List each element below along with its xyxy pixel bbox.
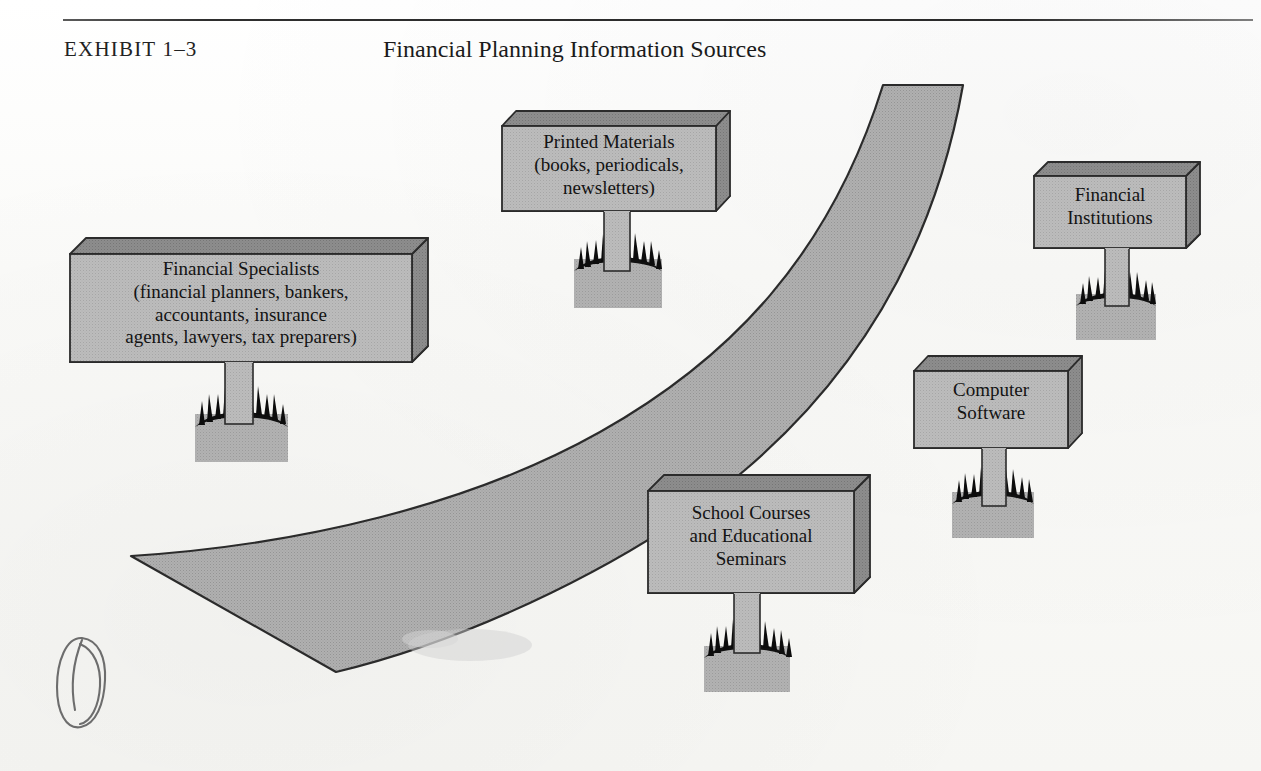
sign-financial-institutions[interactable]: Financial Institutions xyxy=(1028,148,1223,340)
exhibit-canvas: EXHIBIT 1–3 Financial Planning Informati… xyxy=(0,0,1261,771)
header-rule xyxy=(63,19,1253,21)
exhibit-label: EXHIBIT 1–3 xyxy=(64,37,198,62)
page-title: Financial Planning Information Sources xyxy=(383,36,766,63)
sign-financial-specialists[interactable]: Financial Specialists (financial planner… xyxy=(62,222,452,462)
pen-scribble-loop-icon xyxy=(52,632,114,734)
sign-printed-materials[interactable]: Printed Materials (books, periodicals, n… xyxy=(492,93,742,308)
sign-school-courses[interactable]: School Courses and Educational Seminars xyxy=(640,460,890,692)
sign-computer-software[interactable]: Computer Software xyxy=(908,342,1103,538)
